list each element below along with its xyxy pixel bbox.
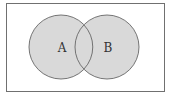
venn-diagram: A B (0, 0, 169, 94)
set-a-label: A (57, 41, 67, 55)
set-b-label: B (104, 41, 113, 55)
